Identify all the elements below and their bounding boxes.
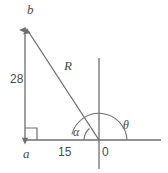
label-point-b: b [27,3,34,16]
point-a-arrowhead [22,138,28,145]
label-angle-alpha: α [73,126,79,138]
vector-diagram: b 28 R a 15 0 α θ [0,0,168,173]
label-hypotenuse: R [64,59,72,72]
label-vertical-leg: 28 [10,73,23,85]
hypotenuse-segment [28,31,99,140]
angle-alpha-arc [84,129,89,141]
label-origin: 0 [102,146,109,158]
label-angle-theta: θ [123,119,129,131]
label-point-a: a [23,147,30,160]
label-horizontal-leg: 15 [58,146,71,158]
